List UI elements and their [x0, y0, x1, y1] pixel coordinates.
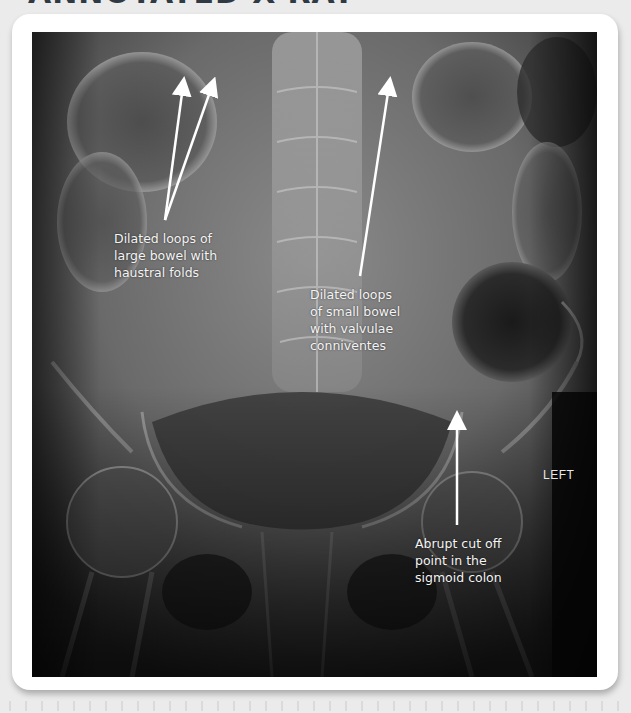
annotation-sigmoid-cutoff: Abrupt cut off point in the sigmoid colo…: [415, 535, 502, 586]
annotation-large-bowel: Dilated loops of large bowel with haustr…: [114, 230, 217, 281]
xray-radiograph: [32, 32, 597, 677]
bottom-tick-row: [0, 697, 631, 713]
page-title: ANNOTATED X-RAY: [28, 0, 356, 8]
orientation-marker-left: LEFT: [543, 468, 574, 482]
annotation-small-bowel: Dilated loops of small bowel with valvul…: [310, 286, 400, 354]
xray-image: Dilated loops of large bowel with haustr…: [32, 32, 597, 677]
